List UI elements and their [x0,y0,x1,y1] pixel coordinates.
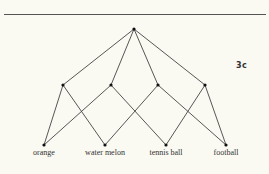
edge-root-middle [134,29,158,85]
edge-middle-leaf [44,85,111,145]
root-node [132,27,135,30]
edge-root-middle [63,29,134,85]
edge-middle-leaf [111,85,166,145]
edge-middle-leaf [105,85,158,145]
edge-middle-leaf [166,85,205,145]
middle-node [61,83,64,86]
edges [44,29,226,145]
leaf-label-water-melon: water melon [85,148,125,157]
edge-root-middle [134,29,205,85]
edge-root-middle [111,29,134,85]
middle-node [203,83,206,86]
leaf-label-tennis-ball: tennis ball [149,148,182,157]
leaf-node [103,143,106,146]
nodes [42,27,227,146]
leaf-node [164,143,167,146]
leaf-node [224,143,227,146]
middle-node [156,83,159,86]
figure-label: 3c [236,61,247,70]
leaf-node [42,143,45,146]
leaf-label-orange: orange [33,148,55,157]
middle-node [109,83,112,86]
leaf-label-football: football [214,148,239,157]
edge-middle-leaf [63,85,105,145]
